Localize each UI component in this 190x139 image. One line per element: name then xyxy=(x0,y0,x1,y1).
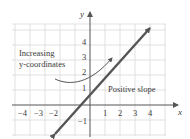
tick-x-3: 3 xyxy=(133,108,137,118)
increasing-label-line2: y-coordinates xyxy=(19,59,65,69)
tick-y-1: 1 xyxy=(82,83,86,93)
y-axis-label: y xyxy=(79,9,84,19)
tick-x-neg3: −3 xyxy=(34,108,43,118)
tick-y-4: 4 xyxy=(82,37,87,47)
tick-x-2: 2 xyxy=(118,108,122,118)
tick-x-4: 4 xyxy=(148,108,153,118)
tick-x-neg4: −4 xyxy=(18,108,28,118)
increasing-label-line1: Increasing xyxy=(19,48,55,58)
tick-x-1: 1 xyxy=(103,108,107,118)
tick-y-2: 2 xyxy=(82,67,86,77)
grid xyxy=(12,24,166,136)
slope-diagram: x y −4 −3 −2 1 2 3 4 4 3 2 1 −1 Increasi… xyxy=(0,0,190,139)
tick-x-neg2: −2 xyxy=(49,108,58,118)
tick-y-3: 3 xyxy=(82,52,86,62)
x-axis-label: x xyxy=(177,107,182,117)
positive-slope-label: Positive slope xyxy=(108,84,156,94)
positive-slope-line xyxy=(55,28,150,134)
tick-y-neg1: −1 xyxy=(78,116,87,126)
